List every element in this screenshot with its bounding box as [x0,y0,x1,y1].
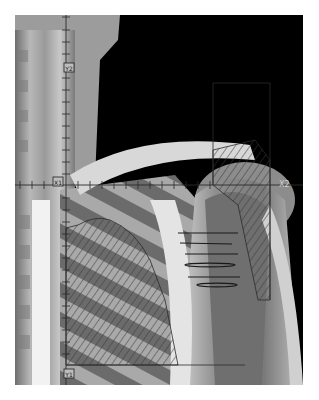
svg-text:Y2: Y2 [64,65,73,72]
marker-left: X1 [53,177,63,186]
marker-bottom: Y1 [64,369,74,378]
svg-text:X1: X1 [54,179,62,186]
marker-top: Y2 [64,63,74,72]
radiograph-svg: Y2 X1 Y1 X2 [0,0,319,400]
x2-label: X2 [279,180,290,189]
radiograph-stage: Y2 X1 Y1 X2 [0,0,319,400]
svg-text:Y1: Y1 [64,371,73,378]
